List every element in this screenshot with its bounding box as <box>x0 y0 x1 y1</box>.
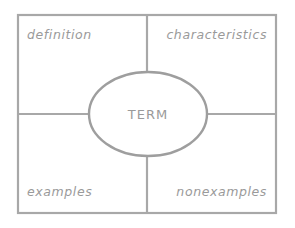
center-term: TERM <box>127 107 168 122</box>
quadrant-label-definition: definition <box>27 27 92 42</box>
quadrant-label-characteristics: characteristics <box>166 27 267 42</box>
frayer-model-diagram: TERM definition characteristics examples… <box>0 0 295 228</box>
quadrant-label-nonexamples: nonexamples <box>176 184 267 199</box>
quadrant-label-examples: examples <box>27 184 92 199</box>
